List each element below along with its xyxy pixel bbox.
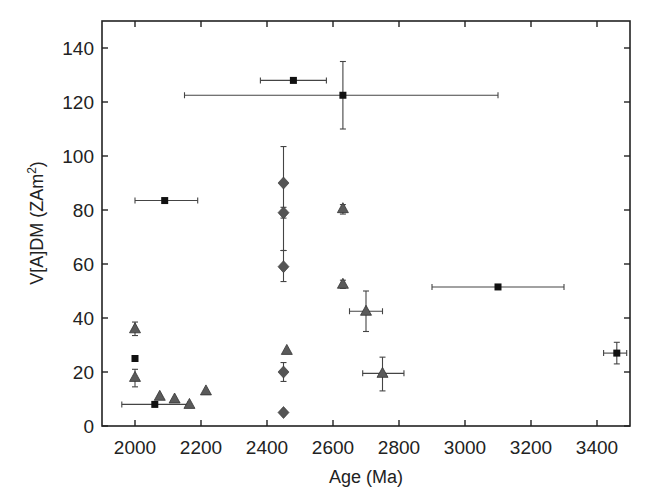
triangle-marker: [130, 323, 141, 333]
x-tick-label: 2000: [114, 437, 156, 458]
y-tick-label: 80: [73, 200, 94, 221]
diamond-marker: [278, 261, 289, 273]
triangle-marker: [377, 367, 388, 377]
triangle-marker: [281, 344, 292, 354]
y-tick-label: 120: [62, 92, 94, 113]
triangle-marker: [184, 398, 195, 408]
diamond-marker: [278, 407, 289, 419]
y-tick-label: 60: [73, 254, 94, 275]
triangle-marker: [130, 371, 141, 381]
plot-frame: [102, 21, 630, 426]
x-tick-label: 3200: [510, 437, 552, 458]
square-marker: [161, 197, 168, 204]
y-tick-label: 100: [62, 146, 94, 167]
triangle-marker: [361, 305, 372, 315]
y-axis-title: V[A]DM (ZAm2): [25, 161, 47, 285]
square-marker: [132, 355, 139, 362]
square-marker: [151, 401, 158, 408]
triangle-marker: [337, 278, 348, 288]
square-marker: [290, 77, 297, 84]
square-marker: [613, 350, 620, 357]
x-tick-label: 2800: [378, 437, 420, 458]
square-marker: [339, 92, 346, 99]
axes: 2000220024002600280030003200340002040608…: [62, 21, 630, 458]
x-tick-label: 2600: [312, 437, 354, 458]
x-tick-label: 3000: [444, 437, 486, 458]
data-markers: [130, 77, 621, 419]
triangle-marker: [337, 203, 348, 213]
y-tick-label: 20: [73, 362, 94, 383]
triangle-marker: [154, 390, 165, 400]
y-tick-label: 40: [73, 308, 94, 329]
square-marker: [495, 283, 502, 290]
error-bars: [122, 62, 627, 408]
y-tick-label: 0: [83, 416, 94, 437]
triangle-marker: [169, 393, 180, 403]
x-tick-label: 2400: [246, 437, 288, 458]
triangle-marker: [200, 385, 211, 395]
diamond-marker: [278, 366, 289, 378]
x-tick-label: 3400: [576, 437, 618, 458]
y-tick-label: 140: [62, 38, 94, 59]
x-axis-title: Age (Ma): [329, 467, 403, 487]
diamond-marker: [278, 207, 289, 219]
diamond-marker: [278, 177, 289, 189]
x-tick-label: 2200: [180, 437, 222, 458]
scatter-chart: 2000220024002600280030003200340002040608…: [0, 0, 649, 501]
